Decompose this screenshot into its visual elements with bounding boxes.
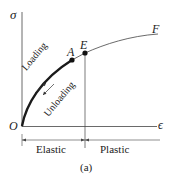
stress-strain-diagram <box>0 0 173 178</box>
plastic-region-label: Plastic <box>100 144 129 155</box>
plastic-arrow-left <box>85 139 89 142</box>
point-a-label: A <box>67 46 74 58</box>
y-axis-label: σ <box>10 8 16 21</box>
point-f-label: F <box>152 23 159 35</box>
figure-caption: (a) <box>80 162 92 173</box>
x-axis-label: ϵ <box>158 119 163 131</box>
elastic-region-label: Elastic <box>36 144 66 155</box>
elastic-arrow-right <box>81 139 85 142</box>
origin-label: O <box>9 120 18 132</box>
point-e-label: E <box>80 39 87 51</box>
elastic-arrow-left <box>22 139 26 142</box>
